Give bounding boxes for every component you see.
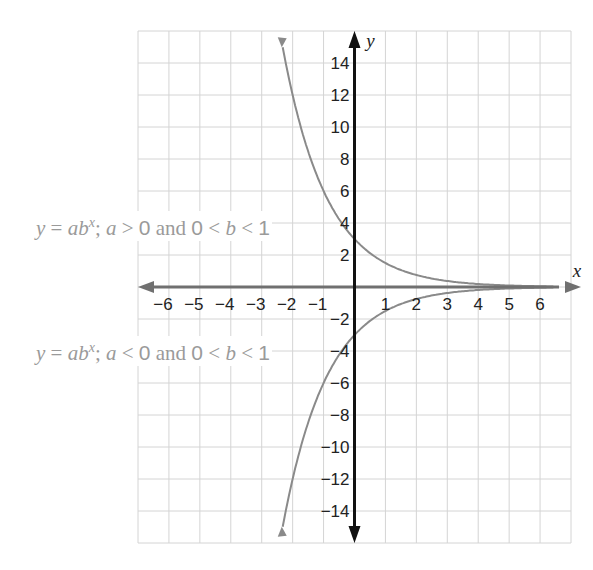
annotation-positive-a: y = abx; a > 0 and 0 < b < 1 (34, 211, 272, 241)
svg-text:−6: −6 (330, 374, 349, 393)
svg-text:y: y (364, 30, 375, 51)
svg-text:5: 5 (504, 295, 513, 314)
svg-text:6: 6 (340, 182, 349, 201)
svg-text:−3: −3 (246, 295, 265, 314)
svg-text:−12: −12 (321, 470, 350, 489)
exponential-chart: −6−5−4−3−2−1123456−14−12−10−8−6−4−224681… (0, 0, 593, 570)
svg-text:2: 2 (340, 246, 349, 265)
svg-text:8: 8 (340, 150, 349, 169)
svg-text:x: x (572, 260, 582, 281)
svg-text:−2: −2 (330, 310, 349, 329)
svg-text:−1: −1 (308, 295, 327, 314)
annotation-negative-a: y = abx; a < 0 and 0 < b < 1 (34, 336, 272, 366)
svg-text:−4: −4 (215, 295, 234, 314)
svg-text:−2: −2 (277, 295, 296, 314)
svg-text:10: 10 (331, 118, 350, 137)
svg-text:6: 6 (535, 295, 544, 314)
svg-text:2: 2 (412, 295, 421, 314)
svg-text:−10: −10 (321, 438, 350, 457)
svg-text:−6: −6 (153, 295, 172, 314)
svg-text:1: 1 (381, 295, 390, 314)
svg-text:3: 3 (443, 295, 452, 314)
svg-text:−14: −14 (321, 502, 350, 521)
svg-text:12: 12 (331, 86, 350, 105)
axes (138, 31, 581, 543)
svg-text:14: 14 (331, 54, 350, 73)
svg-text:−5: −5 (184, 295, 203, 314)
svg-text:−4: −4 (330, 342, 349, 361)
svg-text:−8: −8 (330, 406, 349, 425)
svg-text:4: 4 (340, 214, 349, 233)
svg-text:4: 4 (473, 295, 482, 314)
